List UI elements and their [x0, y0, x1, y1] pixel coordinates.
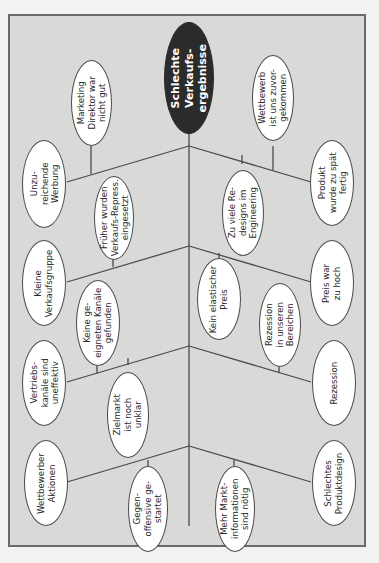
sub-cause-gegenoffensive: Gegen- offensive ge- startet	[128, 466, 168, 552]
cause-preis-hoch: Preis war zu hoch	[310, 240, 354, 326]
effect-head-node: Schlechte Verkaufs- ergebnisse	[164, 22, 214, 134]
sub-cause-frueher-verkaufs-repress: Früher wurden Verkaufs-Repress. eingeset…	[94, 176, 134, 260]
effect-head-label: Schlechte Verkaufs- ergebnisse	[169, 44, 210, 112]
sub-cause-label: Preis war zu hoch	[322, 263, 343, 302]
cause-label: Wettbewerber Aktionen	[36, 453, 57, 514]
cause-label: Rezession	[329, 362, 340, 405]
sub-cause-label: Keine ge- eigneten Kanäle gefunden	[82, 288, 114, 358]
sub-cause-label: Zu viele Re- designs im Engineering	[227, 187, 259, 239]
sub-cause-markt-informationen: Mehr Markt- informationen sind nötig	[215, 466, 255, 552]
cause-unzureichende-werbung: Unzu- reichende Werbung	[22, 140, 66, 228]
cause-label: Kleine Verkaufsgruppe	[34, 249, 55, 317]
sub-cause-keine-kanaele: Keine ge- eigneten Kanäle gefunden	[76, 280, 120, 366]
sub-cause-label: Marketing Direktor war nicht gut	[76, 76, 108, 129]
sub-cause-label: Rezession in unseren Bereichen	[264, 302, 296, 347]
cause-vertriebskanaele: Vertriebs- kanäle sind uneffektiv	[22, 340, 66, 426]
sub-cause-label: Früher wurden Verkaufs-Repress. eingeset…	[98, 180, 130, 257]
sub-cause-label: Gegen- offensive ge- startet	[132, 481, 164, 537]
sub-cause-label: Mehr Markt- informationen sind nötig	[219, 479, 251, 539]
sub-cause-redesigns: Zu viele Re- designs im Engineering	[222, 170, 264, 256]
cause-kleine-verkaufsgruppe: Kleine Verkaufsgruppe	[22, 240, 66, 326]
sub-cause-label: Zielmarkt ist noch unklar	[112, 394, 144, 435]
cause-label: Vertriebs- kanäle sind uneffektiv	[28, 359, 60, 408]
cause-wettbewerber-aktionen: Wettbewerber Aktionen	[24, 440, 68, 526]
sub-cause-label: Wettbewerb ist uns zuvor- gekommen	[257, 69, 289, 126]
sub-cause-label: Kein elastischer Preis	[209, 265, 230, 333]
branch-line-produktdesign	[189, 446, 311, 482]
cause-produkt-spaet: Produkt wurde zu spät fertig	[310, 140, 354, 226]
sub-cause-kein-elastischer-preis: Kein elastischer Preis	[197, 258, 241, 340]
branch-line-werbung	[67, 146, 189, 182]
sub-cause-wettbewerb-zuvor: Wettbewerb ist uns zuvor- gekommen	[252, 55, 294, 141]
cause-label: Produkt wurde zu spät fertig	[316, 153, 348, 214]
sub-cause-rezession-bereiche: Rezession in unseren Bereichen	[259, 283, 301, 367]
sub-cause-zielmarkt: Zielmarkt ist noch unklar	[107, 372, 149, 458]
cause-rezession: Rezession	[312, 340, 356, 426]
cause-label: Schlechtes Produktdesign	[324, 452, 345, 513]
cause-schlechtes-produktdesign: Schlechtes Produktdesign	[312, 440, 356, 526]
sub-cause-marketing-direktor: Marketing Direktor war nicht gut	[71, 60, 112, 146]
cause-label: Unzu- reichende Werbung	[28, 163, 60, 206]
